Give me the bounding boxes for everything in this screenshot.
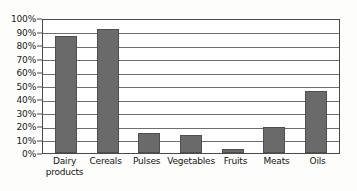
y-tick-label: 20% <box>17 123 36 132</box>
y-tick-label: 0% <box>22 150 36 159</box>
bar-series <box>43 20 339 153</box>
bar-slot <box>254 20 296 153</box>
bar <box>180 135 202 153</box>
plot-area <box>42 19 340 154</box>
bar <box>263 127 285 153</box>
y-tick-label: 70% <box>17 55 36 64</box>
bar-slot <box>128 20 170 153</box>
bar <box>138 133 160 153</box>
bar <box>305 91 327 153</box>
y-tick-label: 60% <box>17 69 36 78</box>
x-label-slot: Dairy products <box>44 156 85 190</box>
x-tick-label: Vegetables <box>167 156 215 167</box>
y-tick-label: 40% <box>17 96 36 105</box>
x-tick-label: Meats <box>256 156 297 167</box>
y-tick-label: 100% <box>11 15 36 24</box>
x-label-slot: Meats <box>256 156 297 190</box>
x-tick-label: Cereals <box>85 156 126 167</box>
x-tick-label: Fruits <box>215 156 256 167</box>
bar-slot <box>45 20 87 153</box>
y-tick-label: 30% <box>17 109 36 118</box>
x-label-slot: Fruits <box>215 156 256 190</box>
y-tick-label: 80% <box>17 42 36 51</box>
bar-slot <box>212 20 254 153</box>
bar-chart: 100%90%80%70%60%50%40%30%20%10%0% Dairy … <box>0 0 357 191</box>
x-label-slot: Oils <box>297 156 338 190</box>
x-tick-label: Dairy products <box>44 156 85 177</box>
x-label-slot: Vegetables <box>167 156 215 190</box>
x-label-slot: Pulses <box>126 156 167 190</box>
y-tick-label: 90% <box>17 28 36 37</box>
bar <box>55 36 77 153</box>
bar-slot <box>295 20 337 153</box>
x-axis-category-labels: Dairy productsCerealsPulsesVegetablesFru… <box>42 156 340 190</box>
x-tick-label: Pulses <box>126 156 167 167</box>
bar <box>222 149 244 153</box>
bar-slot <box>87 20 129 153</box>
y-tick-label: 10% <box>17 136 36 145</box>
bar <box>97 29 119 153</box>
y-axis-tick-labels: 100%90%80%70%60%50%40%30%20%10%0% <box>0 19 36 154</box>
x-label-slot: Cereals <box>85 156 126 190</box>
y-tick-label: 50% <box>17 82 36 91</box>
x-tick-label: Oils <box>297 156 338 167</box>
bar-slot <box>170 20 212 153</box>
